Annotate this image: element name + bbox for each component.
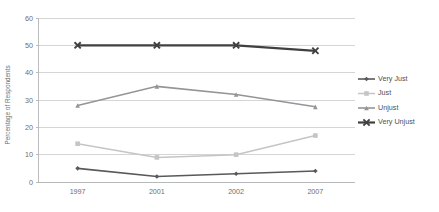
data-point — [155, 155, 160, 160]
data-point — [75, 141, 80, 146]
x-tick-label: 2007 — [307, 187, 323, 196]
y-tick-label: 40 — [25, 68, 33, 77]
legend-swatch-marker — [364, 91, 369, 96]
y-tick-label: 10 — [25, 150, 33, 159]
x-tick-label: 2002 — [228, 187, 244, 196]
y-axis-title: Percentage of Respondents — [4, 65, 12, 144]
data-point — [234, 152, 239, 157]
legend-label: Very Just — [378, 74, 408, 83]
y-tick-label: 50 — [25, 41, 33, 50]
legend-label: Unjust — [378, 103, 398, 112]
legend-label: Very Unjust — [378, 117, 415, 126]
y-tick-label: 0 — [29, 178, 33, 187]
x-tick-label: 1997 — [70, 187, 86, 196]
y-tick-label: 20 — [25, 123, 33, 132]
x-tick-label: 2001 — [149, 187, 165, 196]
y-tick-label: 60 — [25, 14, 33, 23]
y-tick-label: 30 — [25, 96, 33, 105]
chart-canvas: 0102030405060 1997200120022007 Percentag… — [0, 0, 439, 212]
legend-label: Just — [378, 88, 391, 97]
line-chart: 0102030405060 1997200120022007 Percentag… — [0, 0, 439, 212]
chart-background — [0, 0, 439, 212]
data-point — [313, 133, 318, 138]
